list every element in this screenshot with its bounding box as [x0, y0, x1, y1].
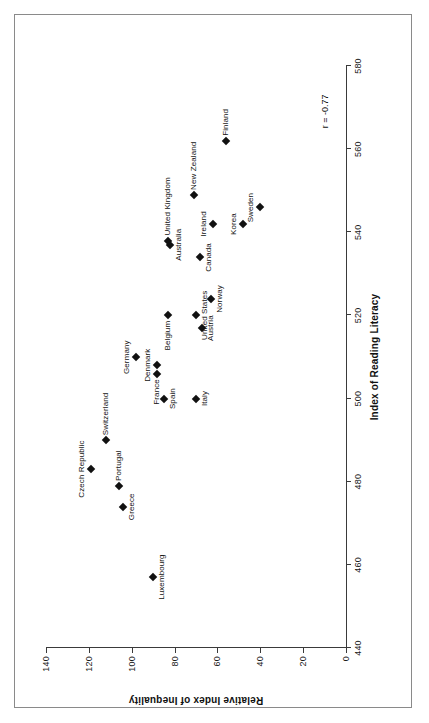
correlation-annotation: r = -0.77	[320, 95, 330, 129]
x-tick-label: 520	[353, 308, 363, 324]
y-tick-label: 120	[84, 656, 94, 672]
data-point-label: Canada	[204, 243, 213, 272]
scatter-chart: 440460480500520540560580 020406080100120…	[24, 46, 404, 706]
y-axis-title-wrapper: Relative Index of Inequality	[46, 692, 346, 706]
x-tick-label: 440	[353, 640, 363, 656]
x-tick-label: 560	[353, 141, 363, 157]
data-point-label: Korea	[229, 213, 238, 235]
y-tick	[346, 648, 347, 653]
x-tick-label: 500	[353, 391, 363, 407]
x-tick	[346, 231, 351, 232]
data-point-label: Finland	[221, 109, 230, 136]
data-point-label: Norway	[215, 285, 224, 313]
x-tick	[346, 564, 351, 565]
data-point-label: Germany	[122, 340, 131, 374]
y-tick	[303, 648, 304, 653]
x-tick	[346, 398, 351, 399]
data-point-label: Italy	[200, 391, 209, 406]
y-tick-label: 80	[170, 656, 180, 666]
data-point-label: Luxembourg	[157, 554, 166, 599]
y-tick	[175, 648, 176, 653]
y-tick-label: 20	[298, 656, 308, 666]
y-tick-label: 60	[212, 656, 222, 666]
data-point-label: United Kingdom	[163, 177, 172, 235]
y-tick-label: 0	[341, 656, 351, 661]
x-axis-line	[346, 66, 347, 648]
data-point-label: France	[152, 379, 161, 405]
x-tick-label: 480	[353, 474, 363, 490]
data-point-label: Switzerland	[101, 393, 110, 435]
data-point-label: Australia	[174, 229, 183, 261]
data-point-label: Spain	[168, 388, 177, 409]
data-point-label: Czech Republic	[77, 440, 86, 497]
data-point-label: New Zealand	[189, 142, 198, 190]
x-tick	[346, 65, 351, 66]
y-tick-label: 100	[127, 656, 137, 672]
x-axis-title: Index of Reading Literacy	[369, 66, 380, 648]
x-tick-label: 540	[353, 224, 363, 240]
x-tick-label: 580	[353, 58, 363, 74]
screenshot-page: 440460480500520540560580 020406080100120…	[0, 0, 429, 723]
figure-frame: 440460480500520540560580 020406080100120…	[14, 14, 412, 708]
y-tick	[260, 648, 261, 653]
y-axis-title: Relative Index of Inequality	[46, 695, 346, 706]
y-tick	[46, 648, 47, 653]
data-point-label: Ireland	[199, 211, 208, 236]
x-tick	[346, 314, 351, 315]
data-point-label: Denmark	[143, 349, 152, 382]
x-tick-label: 460	[353, 557, 363, 573]
data-point-label: Portugal	[114, 450, 123, 481]
y-tick-label: 40	[255, 656, 265, 666]
y-tick	[132, 648, 133, 653]
data-point-label: Greece	[127, 493, 136, 520]
x-tick	[346, 148, 351, 149]
y-tick	[217, 648, 218, 653]
y-tick	[89, 648, 90, 653]
data-point-label: Sweden	[246, 193, 255, 223]
y-tick-label: 140	[41, 656, 51, 672]
data-point-label: Belgium	[163, 321, 172, 351]
x-tick	[346, 481, 351, 482]
